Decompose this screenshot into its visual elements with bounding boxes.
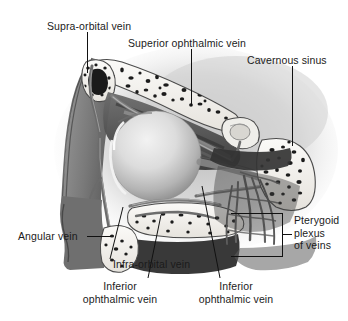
leader-inferior-ophthalmic-vein-right — [202, 186, 220, 278]
label-inferior-ophthalmic-vein-left-line-2: ophthalmic vein — [83, 293, 157, 305]
label-pterygoid-plexus-line-1: Pterygoid — [294, 214, 339, 226]
label-supra-orbital-vein: Supra-orbital vein — [47, 20, 131, 33]
label-inferior-ophthalmic-vein-right: Inferior ophthalmic vein — [186, 280, 286, 305]
leader-infra-orbital-vein — [110, 207, 123, 259]
label-pterygoid-plexus-of-veins: Pterygoid plexus of veins — [294, 214, 346, 252]
label-infra-orbital-vein: Infra-orbital vein — [113, 258, 190, 271]
anatomy-figure: Supra-orbital vein Superior ophthalmic v… — [0, 0, 348, 321]
label-pterygoid-plexus-line-3: of veins — [294, 239, 331, 251]
label-angular-vein: Angular vein — [18, 230, 78, 243]
label-inferior-ophthalmic-vein-right-line-2: ophthalmic vein — [199, 293, 273, 305]
label-inferior-ophthalmic-vein-left: Inferior ophthalmic vein — [70, 280, 170, 305]
label-inferior-ophthalmic-vein-left-line-1: Inferior — [103, 280, 136, 292]
label-inferior-ophthalmic-vein-right-line-1: Inferior — [219, 280, 252, 292]
label-superior-ophthalmic-vein: Superior ophthalmic vein — [128, 37, 246, 50]
label-pterygoid-plexus-line-2: plexus — [294, 227, 325, 239]
label-cavernous-sinus: Cavernous sinus — [247, 54, 327, 67]
